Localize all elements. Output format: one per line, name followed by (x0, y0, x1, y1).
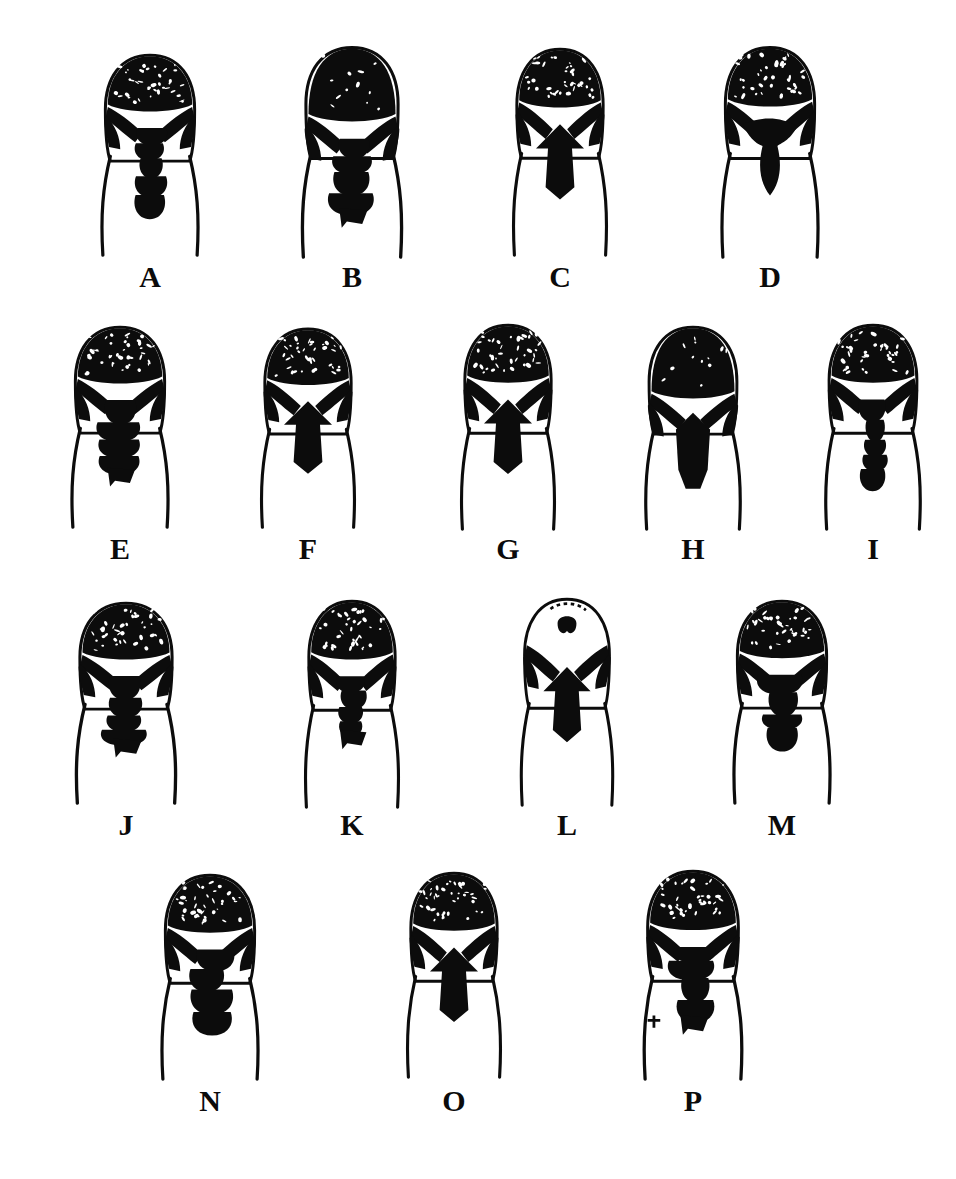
specimen-drawing-h (632, 320, 754, 534)
specimen-drawing-e (58, 320, 182, 532)
specimen-drawing-p (630, 864, 756, 1084)
specimen-label-a: A (88, 262, 212, 292)
specimen-drawing-c (500, 42, 620, 260)
specimen-drawing-k (292, 594, 412, 812)
specimen-drawing-g (448, 318, 568, 534)
specimen-drawing-i (812, 318, 934, 534)
specimen-label-i: I (812, 534, 934, 564)
specimen-label-g: G (448, 534, 568, 564)
specimen-label-j: J (62, 810, 190, 840)
specimen-label-k: K (292, 810, 412, 840)
figure-plate: ABCDEFGHIJKLMNOP (0, 0, 956, 1179)
specimen-drawing-l (508, 592, 626, 810)
specimen-label-e: E (58, 534, 182, 564)
specimen-label-n: N (148, 1086, 272, 1116)
specimen-label-h: H (632, 534, 754, 564)
specimen-drawing-a (88, 48, 212, 260)
specimen-label-l: L (508, 810, 626, 840)
specimen-label-d: D (708, 262, 832, 292)
specimen-drawing-j (62, 596, 190, 808)
specimen-drawing-n (148, 868, 272, 1084)
specimen-drawing-m (720, 594, 844, 808)
specimen-label-f: F (248, 534, 368, 564)
specimen-drawing-o (394, 866, 514, 1082)
specimen-drawing-f (248, 322, 368, 532)
specimen-label-b: B (288, 262, 416, 292)
specimen-drawing-d (708, 40, 832, 262)
specimen-label-p: P (630, 1086, 756, 1116)
specimen-label-o: O (394, 1086, 514, 1116)
specimen-label-c: C (500, 262, 620, 292)
specimen-label-m: M (720, 810, 844, 840)
specimen-drawing-b (288, 40, 416, 262)
